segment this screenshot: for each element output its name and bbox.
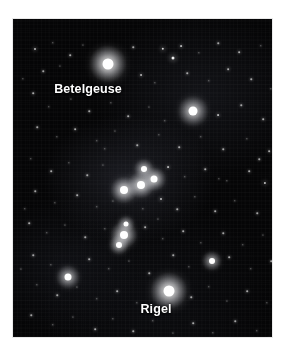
field-star (176, 208, 178, 210)
field-star (190, 296, 192, 298)
field-star (64, 224, 65, 225)
field-star (256, 330, 257, 331)
field-star (76, 194, 78, 196)
field-star (258, 158, 260, 160)
field-star (36, 126, 38, 128)
field-star (154, 82, 155, 83)
field-star (82, 44, 83, 45)
field-star (194, 196, 195, 197)
star-orion-nebula (120, 231, 128, 239)
field-star (148, 106, 149, 107)
field-star (108, 268, 109, 269)
field-star (136, 144, 138, 146)
field-star (162, 48, 164, 50)
field-star (32, 92, 34, 94)
star-glow-meissa (134, 159, 154, 179)
field-star (56, 294, 58, 296)
field-star (104, 148, 105, 149)
star-glow-alnitak (110, 176, 137, 203)
field-star (22, 78, 23, 79)
label-rigel: Rigel (140, 302, 171, 316)
field-star (36, 284, 37, 285)
field-star (204, 168, 206, 170)
field-star (86, 174, 88, 176)
field-star (34, 48, 36, 50)
star-glow-betelgeuse (89, 45, 126, 82)
star-alnilam (137, 181, 145, 189)
star-rigel (164, 286, 175, 297)
field-star (246, 138, 247, 139)
field-star (110, 102, 111, 103)
field-star (144, 226, 146, 228)
field-star (96, 298, 97, 299)
field-star (136, 302, 137, 303)
field-star (214, 210, 216, 212)
field-star (20, 268, 21, 269)
star-glow-eta-orionis (202, 251, 222, 271)
field-star (158, 134, 159, 135)
field-star (208, 286, 209, 287)
field-star (242, 244, 243, 245)
field-star (200, 242, 201, 243)
field-star (212, 332, 213, 333)
field-star (167, 166, 169, 168)
field-star (52, 42, 53, 43)
field-star (270, 260, 272, 262)
field-star (266, 302, 267, 303)
star-saiph (65, 274, 72, 281)
field-star (172, 57, 175, 60)
field-star (250, 78, 252, 80)
field-star (88, 258, 90, 260)
sensor-noise-overlay (13, 19, 272, 337)
field-star (227, 68, 229, 70)
star-glow-mintaka (142, 167, 166, 191)
field-star (30, 314, 32, 316)
field-star (148, 272, 150, 274)
field-star (217, 114, 219, 116)
field-star (142, 208, 143, 209)
field-star (96, 206, 97, 207)
field-star (68, 162, 69, 163)
field-star (184, 176, 185, 177)
field-star (88, 110, 90, 112)
field-star (172, 254, 174, 256)
field-star (178, 146, 180, 148)
field-star (180, 45, 182, 47)
star-mintaka (151, 176, 158, 183)
field-star (96, 140, 97, 141)
star-sword-upper (124, 222, 129, 227)
field-star (250, 268, 251, 269)
field-star (94, 328, 96, 330)
star-eta-orionis (209, 258, 215, 264)
field-star (162, 238, 163, 239)
field-star (262, 234, 263, 235)
sky-glow-overlay (13, 19, 272, 337)
field-star (74, 128, 76, 130)
field-star (116, 290, 118, 292)
field-star (160, 198, 162, 200)
page-background: BetelgeuseRigel (0, 0, 288, 355)
field-star (172, 332, 173, 333)
field-star (54, 202, 55, 203)
field-star (264, 182, 266, 184)
field-star (222, 232, 224, 234)
field-star (182, 230, 184, 232)
field-star (46, 232, 47, 233)
field-star (152, 320, 153, 321)
field-star (72, 316, 73, 317)
star-betelgeuse (103, 59, 114, 70)
field-star (268, 150, 270, 152)
field-star (56, 136, 57, 137)
field-star (24, 208, 25, 209)
star-alnitak (120, 186, 128, 194)
field-star (164, 120, 165, 121)
field-star (52, 324, 53, 325)
field-star (59, 65, 60, 66)
field-star (246, 290, 248, 292)
field-star (102, 164, 103, 165)
field-star (104, 228, 105, 229)
field-star (226, 180, 227, 181)
field-star (192, 322, 194, 324)
field-star (226, 300, 227, 301)
field-star (234, 200, 235, 201)
